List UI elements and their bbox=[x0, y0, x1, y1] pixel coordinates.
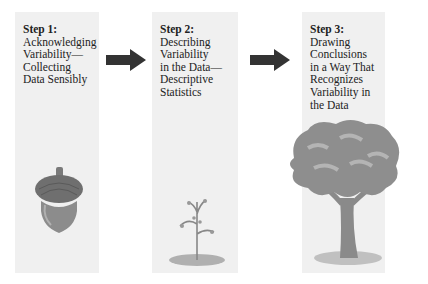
right-arrow-icon bbox=[250, 49, 290, 71]
step-2-title: Step 2: bbox=[160, 23, 222, 36]
step-3-text: Step 3: Drawing Conclusions in a Way Tha… bbox=[310, 23, 374, 111]
step-2-text: Step 2: Describing Variability in the Da… bbox=[160, 23, 222, 99]
tree-icon bbox=[284, 118, 406, 268]
right-arrow-icon bbox=[106, 49, 146, 71]
step-1-line: Data Sensibly bbox=[23, 73, 96, 86]
step-2-line: in the Data— bbox=[160, 61, 222, 74]
step-2-line: Variability bbox=[160, 48, 222, 61]
step-1-line: Variability— bbox=[23, 48, 96, 61]
step-2-line: Statistics bbox=[160, 86, 222, 99]
step-2-line: Describing bbox=[160, 36, 222, 49]
step-2-panel: Step 2: Describing Variability in the Da… bbox=[152, 12, 238, 273]
step-3-line: the Data bbox=[310, 99, 374, 112]
step-1-text: Step 1: Acknowledging Variability— Colle… bbox=[23, 23, 96, 86]
step-3-title: Step 3: bbox=[310, 23, 374, 36]
sapling-icon bbox=[166, 194, 228, 270]
step-3-line: Conclusions bbox=[310, 48, 374, 61]
step-3-line: in a Way That bbox=[310, 61, 374, 74]
step-1-line: Collecting bbox=[23, 61, 96, 74]
step-1-panel: Step 1: Acknowledging Variability— Colle… bbox=[15, 12, 99, 273]
step-1-line: Acknowledging bbox=[23, 36, 96, 49]
step-3-line: Drawing bbox=[310, 36, 374, 49]
step-1-title: Step 1: bbox=[23, 23, 96, 36]
step-3-line: Recognizes bbox=[310, 73, 374, 86]
step-3-line: Variability in bbox=[310, 86, 374, 99]
acorn-icon bbox=[33, 167, 85, 235]
step-2-line: Descriptive bbox=[160, 73, 222, 86]
